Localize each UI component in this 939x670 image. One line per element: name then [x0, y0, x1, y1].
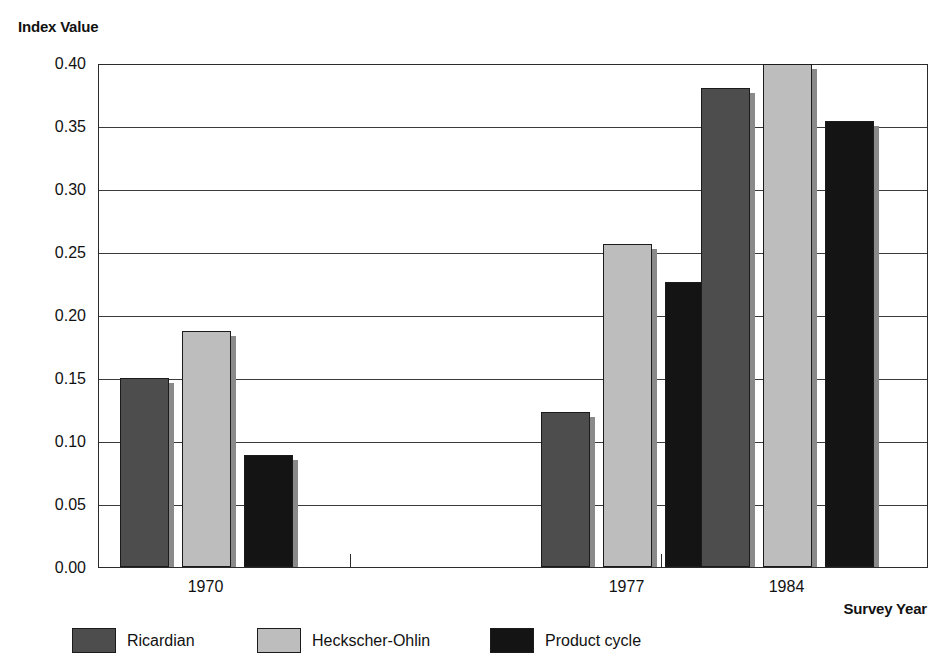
y-axis-tick-label: 0.05	[24, 497, 86, 513]
y-axis-tick-label: 0.00	[24, 560, 86, 576]
legend-swatch	[490, 628, 534, 653]
bar[interactable]	[825, 121, 874, 567]
bar[interactable]	[763, 64, 812, 567]
legend-label: Heckscher-Ohlin	[312, 633, 430, 649]
bar-shadow	[293, 460, 298, 567]
chart-legend: RicardianHeckscher-OhlinProduct cycle	[0, 628, 939, 664]
x-axis-tick-label: 1970	[146, 578, 266, 596]
bar[interactable]	[541, 412, 590, 567]
x-axis-tick-mark	[350, 554, 351, 567]
bar-shadow	[652, 249, 657, 567]
y-axis-tick-labels: 0.000.050.100.150.200.250.300.350.40	[0, 0, 90, 670]
legend-item[interactable]: Heckscher-Ohlin	[257, 628, 430, 653]
y-axis-tick-label: 0.25	[24, 245, 86, 261]
legend-item[interactable]: Product cycle	[490, 628, 641, 653]
y-axis-tick-label: 0.20	[24, 308, 86, 324]
legend-item[interactable]: Ricardian	[72, 628, 195, 653]
bar[interactable]	[603, 244, 652, 567]
bar-shadow	[874, 126, 879, 567]
bar[interactable]	[244, 455, 293, 567]
bar-shadow	[750, 93, 755, 567]
y-axis-tick-label: 0.30	[24, 182, 86, 198]
x-axis-tick-label: 1984	[727, 578, 847, 596]
bar-shadow	[231, 336, 236, 567]
bar-shadow	[590, 417, 595, 567]
x-axis-tick-label: 1977	[567, 578, 687, 596]
legend-label: Ricardian	[127, 633, 195, 649]
bar-shadow	[812, 69, 817, 567]
y-axis-tick-label: 0.40	[24, 56, 86, 72]
bar-shadow	[169, 383, 174, 567]
bar[interactable]	[182, 331, 231, 567]
legend-label: Product cycle	[545, 633, 641, 649]
y-axis-tick-label: 0.15	[24, 371, 86, 387]
legend-swatch	[72, 628, 116, 653]
y-axis-tick-label: 0.35	[24, 119, 86, 135]
bar[interactable]	[701, 88, 750, 567]
bar[interactable]	[120, 378, 169, 567]
plot-area	[98, 64, 928, 568]
x-axis-tick-mark	[661, 554, 662, 567]
y-axis-tick-label: 0.10	[24, 434, 86, 450]
legend-swatch	[257, 628, 301, 653]
x-axis-title: Survey Year	[844, 600, 927, 617]
